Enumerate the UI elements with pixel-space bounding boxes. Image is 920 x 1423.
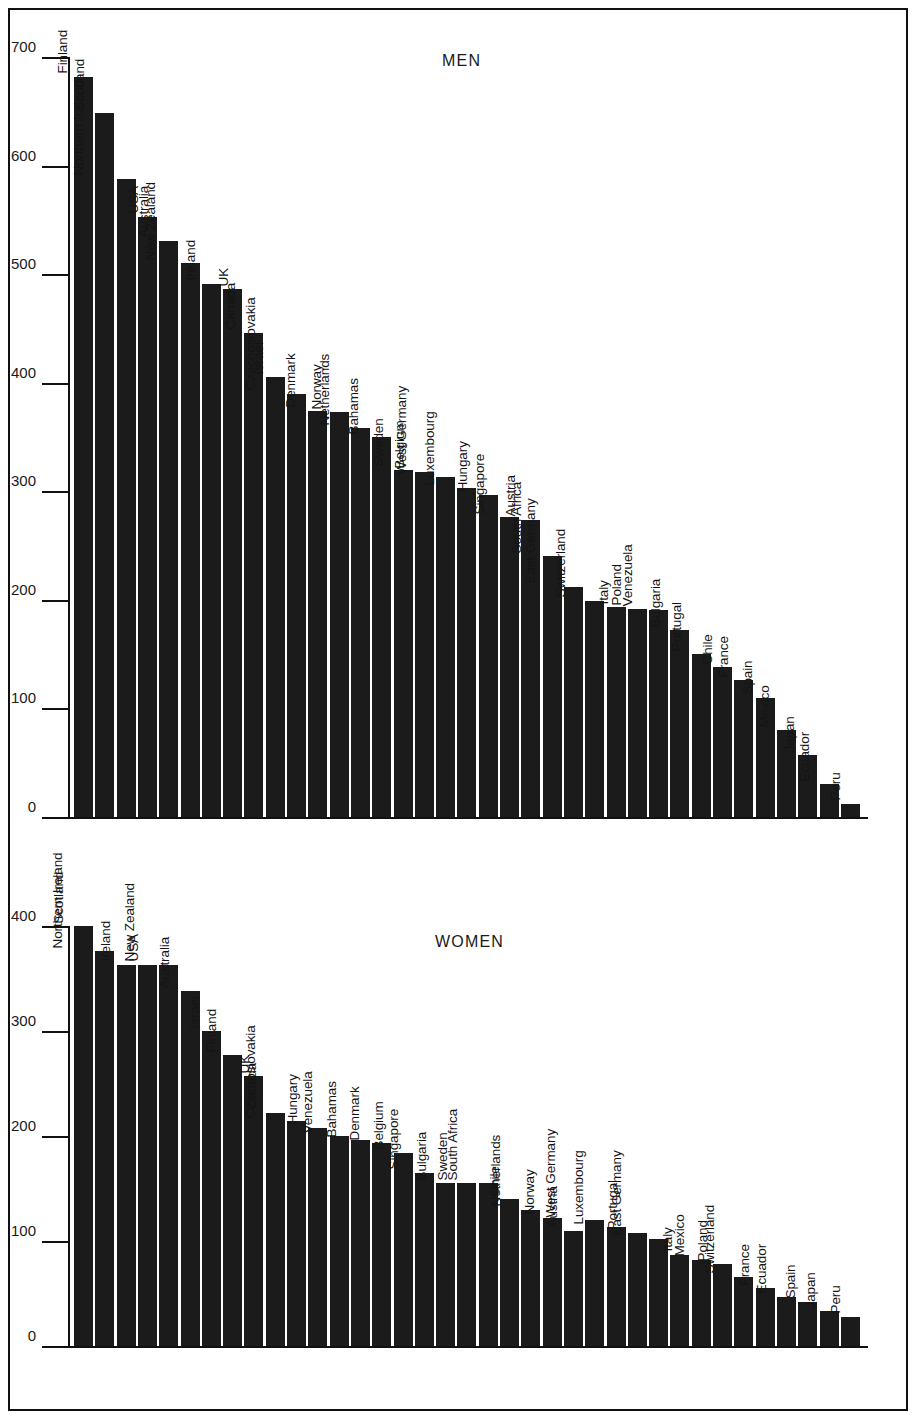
- bar[interactable]: Ireland: [117, 965, 136, 1346]
- bar-category-label: South Africa: [510, 482, 524, 554]
- bar[interactable]: Japan: [820, 1311, 839, 1346]
- bar[interactable]: UK: [223, 289, 242, 817]
- bar[interactable]: Netherlands: [351, 428, 370, 817]
- bar-category-label: Singapore: [387, 1109, 401, 1170]
- bar[interactable]: Venezuela: [649, 610, 668, 817]
- bar[interactable]: Poland: [628, 609, 647, 817]
- bar[interactable]: Canada: [266, 1113, 285, 1346]
- bar[interactable]: Finland: [223, 1055, 242, 1346]
- bar[interactable]: Chile: [713, 667, 732, 817]
- bar-category-label: Denmark: [348, 1086, 362, 1140]
- bar[interactable]: Hungary: [308, 1128, 327, 1346]
- bar[interactable]: Italy: [670, 1255, 689, 1346]
- y-axis-tick-label: 100: [0, 1222, 36, 1239]
- bar[interactable]: West Germany: [436, 477, 455, 817]
- y-axis-tick-label: 0: [0, 798, 36, 815]
- bar[interactable]: Sweden: [394, 470, 413, 817]
- bar[interactable]: Venezuela: [330, 1136, 349, 1346]
- bar[interactable]: Israel: [266, 377, 285, 817]
- bar[interactable]: East Germany: [564, 587, 583, 817]
- bar-category-label: Czechoslovakia: [243, 1025, 257, 1118]
- bar-category-label: Northern Ireland: [50, 852, 64, 948]
- men-plot-area: 0100200300400500600700FinlandScotlandNor…: [68, 57, 868, 817]
- bar-category-label: Northern Ireland: [72, 80, 86, 176]
- bar[interactable]: New Zealand: [159, 965, 178, 1346]
- bar[interactable]: East Germany: [649, 1239, 668, 1346]
- bar-category-label: Portugal: [670, 602, 684, 651]
- bar[interactable]: South Africa: [479, 1183, 498, 1346]
- bar[interactable]: Switzerland: [585, 601, 604, 817]
- bar[interactable]: Bahamas: [351, 1140, 370, 1346]
- bar[interactable]: Belgium: [394, 1153, 413, 1346]
- bar-category-label: Bahamas: [326, 1081, 340, 1137]
- bar[interactable]: Luxembourg: [607, 1227, 626, 1346]
- bar-category-label: Hungary: [286, 1074, 300, 1124]
- bar-category-label: Luxembourg: [572, 1150, 586, 1224]
- x-axis-baseline: [42, 817, 868, 819]
- bar-category-label: Netherlands: [318, 354, 332, 426]
- bar[interactable]: Luxembourg: [457, 488, 476, 817]
- bar[interactable]: Hungary: [479, 495, 498, 817]
- bar[interactable]: Northern Ireland: [117, 179, 136, 817]
- bar[interactable]: France: [734, 680, 753, 817]
- bar-category-label: New Zealand: [123, 883, 137, 961]
- bar[interactable]: Portugal: [692, 654, 711, 817]
- bar[interactable]: Bulgaria: [436, 1183, 455, 1346]
- bar[interactable]: Italy: [607, 607, 626, 817]
- women-chart-panel: WOMEN 0100200300400ScotlandNorthern Irel…: [10, 830, 910, 1413]
- bar-category-label: Mexico: [674, 1215, 688, 1257]
- bar[interactable]: Czechoslovakia: [287, 394, 306, 817]
- bar[interactable]: Canada: [244, 333, 263, 817]
- y-axis-tick-label: 200: [0, 581, 36, 598]
- bar[interactable]: France: [756, 1288, 775, 1346]
- bar[interactable]: Czechoslovakia: [287, 1121, 306, 1346]
- y-axis-tick-label: 600: [0, 147, 36, 164]
- bar[interactable]: Austria: [564, 1231, 583, 1347]
- bar[interactable]: Bulgaria: [670, 630, 689, 817]
- bar[interactable]: Belgium: [415, 472, 434, 817]
- bar[interactable]: Singapore: [500, 517, 519, 817]
- bar[interactable]: Northern Ireland: [95, 951, 114, 1346]
- bar-category-label: Norway: [523, 1170, 537, 1215]
- bar-category-label: Bulgaria: [649, 579, 663, 628]
- bar-category-label: Ireland: [185, 240, 199, 281]
- bar[interactable]: Singapore: [415, 1173, 434, 1346]
- bar-category-label: Israel: [189, 996, 203, 1028]
- bar[interactable]: Netherlands: [521, 1210, 540, 1347]
- bar[interactable]: Scotland: [74, 926, 93, 1346]
- bar-category-label: Australia: [158, 936, 172, 988]
- bar[interactable]: Peru: [841, 1317, 860, 1346]
- bar[interactable]: Bahamas: [372, 437, 391, 817]
- bar[interactable]: Scotland: [95, 113, 114, 817]
- bar[interactable]: Spain: [798, 1302, 817, 1346]
- bar[interactable]: Denmark: [372, 1143, 391, 1346]
- y-axis-tick-label: 100: [0, 689, 36, 706]
- bar[interactable]: Chile: [500, 1199, 519, 1346]
- y-axis-tick-label: 300: [0, 1012, 36, 1029]
- bar[interactable]: West Germany: [585, 1220, 604, 1346]
- bar[interactable]: Peru: [841, 804, 860, 817]
- bar[interactable]: New Zealand: [181, 263, 200, 817]
- bar-category-label: Netherlands: [488, 1135, 502, 1207]
- bar[interactable]: Israel: [202, 1031, 221, 1346]
- bar[interactable]: USA: [138, 217, 157, 817]
- y-axis-tick: [42, 1241, 68, 1243]
- bar[interactable]: Ecuador: [777, 1297, 796, 1346]
- women-plot-area: 0100200300400ScotlandNorthern IrelandIre…: [68, 926, 868, 1346]
- bar[interactable]: Denmark: [308, 411, 327, 817]
- bar[interactable]: Ireland: [202, 284, 221, 817]
- bar[interactable]: Sweden: [457, 1183, 476, 1346]
- bar[interactable]: Australia: [181, 991, 200, 1346]
- bar[interactable]: Poland: [713, 1264, 732, 1346]
- bar[interactable]: Norway: [543, 1218, 562, 1346]
- bar[interactable]: Portugal: [628, 1233, 647, 1346]
- bar[interactable]: Switzerland: [734, 1277, 753, 1346]
- bar[interactable]: Australia: [159, 241, 178, 818]
- bar-category-label: New Zealand: [144, 182, 158, 260]
- bar[interactable]: USA: [138, 965, 157, 1346]
- bar[interactable]: Norway: [330, 412, 349, 817]
- bar-category-label: Peru: [830, 1285, 844, 1313]
- y-axis-tick: [42, 1136, 68, 1138]
- y-axis-tick: [42, 166, 68, 168]
- bar[interactable]: Finland: [74, 77, 93, 817]
